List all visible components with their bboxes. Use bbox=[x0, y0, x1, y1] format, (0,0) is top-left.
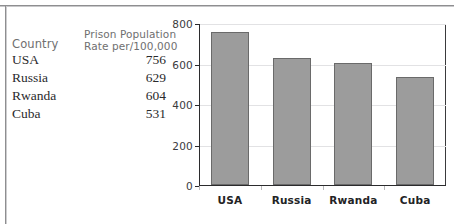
table-row: USA756 bbox=[12, 52, 174, 70]
table-row: Russia629 bbox=[12, 70, 174, 88]
cell-country: USA bbox=[12, 52, 84, 68]
page-border-left-shadow bbox=[6, 6, 7, 224]
column-header-rate: Prison Population Rate per/100,000 bbox=[84, 28, 174, 52]
prison-population-bar-chart: 0200400600800 USARussiaRwandaCuba bbox=[178, 16, 450, 216]
table-row: Rwanda604 bbox=[12, 88, 174, 106]
cell-country: Russia bbox=[12, 70, 84, 86]
cell-rate-value: 604 bbox=[84, 88, 166, 104]
y-tick-mark bbox=[195, 105, 200, 106]
x-tick-label-rwanda: Rwanda bbox=[329, 194, 377, 206]
plot-area: 0200400600800 USARussiaRwandaCuba bbox=[199, 24, 446, 186]
table-row: Cuba531 bbox=[12, 106, 174, 124]
y-tick-label: 400 bbox=[172, 99, 193, 111]
page-border-top-shadow bbox=[0, 6, 454, 7]
cell-rate-value: 756 bbox=[84, 52, 166, 68]
y-tick-label: 800 bbox=[172, 18, 193, 30]
x-tick-label-russia: Russia bbox=[272, 194, 312, 206]
table-header-row: Country Prison Population Rate per/100,0… bbox=[12, 22, 174, 52]
bar-usa bbox=[211, 32, 249, 185]
y-tick-label: 0 bbox=[186, 180, 193, 192]
x-tick-mark bbox=[199, 186, 200, 190]
x-tick-mark bbox=[384, 186, 385, 190]
bar-cuba bbox=[396, 77, 434, 185]
bar-rwanda bbox=[334, 63, 372, 185]
y-tick-mark bbox=[195, 65, 200, 66]
y-tick-label: 600 bbox=[172, 59, 193, 71]
column-header-country: Country bbox=[12, 37, 84, 52]
x-tick-mark bbox=[261, 186, 262, 190]
y-tick-mark bbox=[195, 146, 200, 147]
cell-country: Cuba bbox=[12, 106, 84, 122]
y-tick-label: 200 bbox=[172, 140, 193, 152]
y-tick-mark bbox=[195, 24, 200, 25]
prison-population-table: Country Prison Population Rate per/100,0… bbox=[12, 22, 174, 124]
x-tick-label-cuba: Cuba bbox=[400, 194, 431, 206]
figure-canvas: Country Prison Population Rate per/100,0… bbox=[0, 0, 454, 224]
x-tick-mark bbox=[323, 186, 324, 190]
cell-rate-value: 629 bbox=[84, 70, 166, 86]
cell-country: Rwanda bbox=[12, 88, 84, 104]
cell-rate-value: 531 bbox=[84, 106, 166, 122]
bar-russia bbox=[273, 58, 311, 185]
gridline bbox=[200, 24, 446, 25]
x-tick-label-usa: USA bbox=[217, 194, 242, 206]
column-header-rate-line1: Prison Population bbox=[84, 28, 174, 40]
column-header-rate-line2: Rate per/100,000 bbox=[84, 40, 174, 52]
table-body: USA756Russia629Rwanda604Cuba531 bbox=[12, 52, 174, 124]
